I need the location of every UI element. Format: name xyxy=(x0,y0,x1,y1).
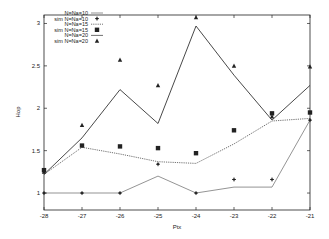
chart: -28-27-26-25-24-23-22-21 11.522.53 N=Na=… xyxy=(0,0,329,239)
y-axis-label: Hop xyxy=(15,106,21,118)
x-axis: -28-27-26-25-24-23-22-21 xyxy=(40,15,315,219)
x-tick-label: -22 xyxy=(268,213,277,219)
y-axis: 11.522.53 xyxy=(32,20,310,196)
y-tick-label: 2.5 xyxy=(32,63,41,69)
y-tick-label: 2 xyxy=(37,105,41,111)
series-sim-n-na-10 xyxy=(42,118,312,195)
y-tick-label: 1.5 xyxy=(32,148,41,154)
x-tick-label: -26 xyxy=(116,213,125,219)
x-tick-label: -23 xyxy=(230,213,239,219)
y-tick-label: 3 xyxy=(37,20,41,26)
x-tick-label: -21 xyxy=(306,213,315,219)
x-tick-label: -25 xyxy=(154,213,163,219)
series-n-na-10 xyxy=(44,120,310,193)
x-axis-label: Ptx xyxy=(173,224,182,230)
x-tick-label: -28 xyxy=(40,213,49,219)
series-n-na-20 xyxy=(44,26,310,174)
y-tick-label: 1 xyxy=(37,190,41,196)
legend-label: sim N=Na=20 xyxy=(54,38,88,44)
x-tick-label: -24 xyxy=(192,213,201,219)
x-tick-label: -27 xyxy=(78,213,87,219)
